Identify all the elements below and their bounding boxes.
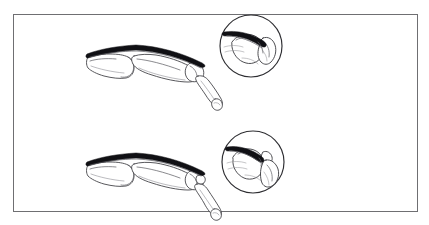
figure-title: Mallet finger extensor tendon injury dia…: [0, 0, 1, 1]
figure-root: Mallet finger extensor tendon injury dia…: [0, 0, 429, 225]
distal-tuft-detail-bottom: [213, 213, 219, 215]
figure-border: [13, 14, 418, 212]
